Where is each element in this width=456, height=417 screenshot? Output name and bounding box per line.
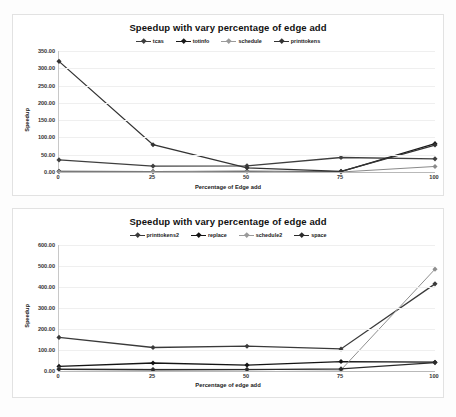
- gridline: [59, 172, 435, 173]
- x-tick-label: 25: [149, 373, 155, 379]
- chart-1-legend: tcas totinfo schedule printtokens: [13, 35, 443, 47]
- data-point-marker: [432, 156, 437, 161]
- legend-marker-icon: [274, 38, 289, 45]
- data-point-marker: [244, 344, 249, 349]
- y-tick-label: 100.00: [38, 134, 55, 140]
- legend-item-printtokens[interactable]: printtokens: [274, 38, 320, 45]
- x-tick-label: 50: [243, 174, 249, 180]
- legend-item-space[interactable]: space: [294, 232, 326, 239]
- legend-label: printtokens2: [147, 232, 179, 239]
- legend-label: schedule: [238, 38, 261, 45]
- chart-1-plot-wrap: Speedup 0.0050.00100.00150.00200.00250.0…: [13, 47, 443, 192]
- y-tick-label: 350.00: [38, 48, 55, 54]
- legend-item-schedule2[interactable]: schedule2: [239, 232, 282, 239]
- chart-2-plot-area: [58, 245, 435, 371]
- data-point-marker: [56, 157, 61, 162]
- x-tick-label: 0: [56, 174, 59, 180]
- x-tick-label: 50: [243, 373, 249, 379]
- y-tick-label: 200.00: [38, 100, 55, 106]
- legend-marker-icon: [221, 38, 236, 45]
- y-tick-label: 150.00: [38, 117, 55, 123]
- gridline: [59, 86, 435, 87]
- legend-item-printtokens2[interactable]: printtokens2: [130, 232, 179, 239]
- legend-item-replace[interactable]: replace: [191, 232, 227, 239]
- legend-label: tcas: [153, 38, 164, 45]
- gridline: [59, 266, 435, 267]
- y-tick-label: 400.00: [38, 284, 55, 290]
- legend-marker-icon: [191, 232, 206, 239]
- legend-marker-icon: [130, 232, 145, 239]
- data-point-marker: [432, 164, 437, 169]
- gridline: [59, 371, 435, 372]
- x-tick-label: 100: [429, 174, 438, 180]
- y-tick-label: 250.00: [38, 83, 55, 89]
- gridline: [59, 51, 435, 52]
- gridline: [59, 155, 435, 156]
- y-tick-label: 0.00: [44, 368, 55, 374]
- data-point-marker: [432, 360, 437, 365]
- legend-label: totinfo: [193, 38, 210, 45]
- y-tick-label: 300.00: [38, 305, 55, 311]
- chart-2-x-axis-title: Percentage of edge add: [13, 382, 443, 388]
- chart-1-plot-area: [58, 51, 435, 172]
- gridline: [59, 120, 435, 121]
- data-point-marker: [338, 359, 343, 364]
- chart-page: Speedup with vary percentage of edge add…: [0, 0, 456, 417]
- y-tick-label: 100.00: [38, 347, 55, 353]
- gridline: [59, 68, 435, 69]
- chart-2-plot-wrap: Speedup 0.00100.00200.00300.00400.00500.…: [13, 241, 443, 391]
- y-tick-label: 200.00: [38, 326, 55, 332]
- chart-2-x-ticks: 0255075100: [58, 373, 435, 381]
- legend-label: space: [311, 232, 326, 239]
- data-point-marker: [150, 164, 155, 169]
- legend-label: schedule2: [256, 232, 282, 239]
- legend-item-totinfo[interactable]: totinfo: [176, 38, 210, 45]
- legend-marker-icon: [176, 38, 191, 45]
- gridline: [59, 137, 435, 138]
- legend-label: printtokens: [291, 38, 320, 45]
- y-tick-label: 0.00: [44, 169, 55, 175]
- legend-marker-icon: [294, 232, 309, 239]
- chart-card-1: Speedup with vary percentage of edge add…: [12, 14, 444, 196]
- legend-item-tcas[interactable]: tcas: [136, 38, 164, 45]
- data-point-marker: [56, 335, 61, 340]
- chart-2-legend: printtokens2 replace schedule2 space: [13, 229, 443, 241]
- y-tick-label: 600.00: [38, 242, 55, 248]
- legend-marker-icon: [136, 38, 151, 45]
- gridline: [59, 350, 435, 351]
- chart-1-x-axis-title: Percentage of Edge add: [13, 184, 443, 190]
- y-tick-label: 50.00: [41, 152, 55, 158]
- legend-marker-icon: [239, 232, 254, 239]
- chart-2-title: Speedup with vary percentage of edge add: [13, 209, 443, 228]
- legend-item-schedule[interactable]: schedule: [221, 38, 261, 45]
- chart-1-title: Speedup with vary percentage of edge add: [13, 15, 443, 34]
- x-tick-label: 100: [429, 373, 438, 379]
- y-tick-label: 300.00: [38, 65, 55, 71]
- chart-2-y-ticks: 0.00100.00200.00300.00400.00500.00600.00: [25, 241, 55, 391]
- x-tick-label: 75: [337, 174, 343, 180]
- chart-card-2: Speedup with vary percentage of edge add…: [12, 208, 444, 398]
- chart-1-y-ticks: 0.0050.00100.00150.00200.00250.00300.003…: [25, 47, 55, 192]
- gridline: [59, 308, 435, 309]
- y-tick-label: 500.00: [38, 263, 55, 269]
- gridline: [59, 329, 435, 330]
- x-tick-label: 0: [56, 373, 59, 379]
- gridline: [59, 245, 435, 246]
- x-tick-label: 25: [149, 174, 155, 180]
- chart-1-x-ticks: 0255075100: [58, 174, 435, 182]
- gridline: [59, 103, 435, 104]
- gridline: [59, 287, 435, 288]
- series-line-printtokens2: [59, 284, 435, 349]
- x-tick-label: 75: [337, 373, 343, 379]
- legend-label: replace: [208, 232, 227, 239]
- data-point-marker: [150, 360, 155, 365]
- series-line-schedule2: [59, 269, 435, 370]
